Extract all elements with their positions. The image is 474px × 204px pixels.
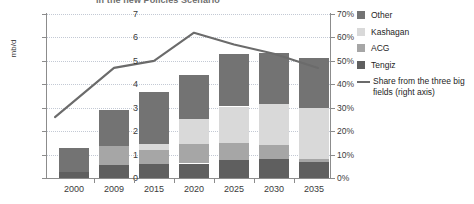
bar-2025-segment-kashagan[interactable]: [219, 107, 249, 143]
y-tick-mark: [42, 108, 46, 109]
y-tick-mark: [42, 84, 46, 85]
x-tick-mark: [134, 179, 135, 183]
x-tick-mark: [294, 179, 295, 183]
bar-2000-segment-other[interactable]: [59, 148, 89, 173]
x-tick-mark: [254, 179, 255, 183]
legend-item-share-line[interactable]: Share from the three big fields (right a…: [357, 76, 474, 97]
y-tick-mark: [42, 155, 46, 156]
y2-tick-mark: [331, 61, 335, 62]
y-tick-label: 7: [114, 10, 138, 19]
bar-2030-segment-other[interactable]: [259, 53, 289, 105]
bar-2000-segment-tengiz[interactable]: [59, 172, 89, 178]
y2-tick-mark: [331, 37, 335, 38]
bar-2035-segment-kashagan[interactable]: [299, 108, 329, 160]
bar-2035-segment-other[interactable]: [299, 58, 329, 108]
chart-legend: Other Kashagan ACG Tengiz Share from the…: [357, 10, 474, 97]
y2-tick-mark: [331, 131, 335, 132]
x-tick-mark: [174, 179, 175, 183]
chart-title: in the new Policies Scenario: [96, 0, 316, 4]
legend-label-share-line: Share from the three big fields (right a…: [373, 76, 469, 97]
y2-tick-label: 30%: [337, 104, 363, 113]
legend-label-kashagan: Kashagan: [371, 27, 409, 38]
legend-item-kashagan[interactable]: Kashagan: [357, 27, 474, 38]
bar-2025-segment-acg[interactable]: [219, 143, 249, 161]
bar-2030-segment-kashagan[interactable]: [259, 104, 289, 145]
y-axis-label: mb/d: [9, 29, 18, 69]
y-tick-label: 1: [114, 151, 138, 160]
y2-tick-label: 0%: [337, 174, 363, 183]
legend-label-other: Other: [371, 10, 392, 21]
x-tick-mark: [94, 179, 95, 183]
bar-2030-segment-acg[interactable]: [259, 145, 289, 160]
bar-2015-segment-tengiz[interactable]: [139, 164, 169, 178]
legend-label-tengiz: Tengiz: [371, 60, 396, 71]
y-tick-mark: [42, 61, 46, 62]
y-tick-label: 2: [114, 127, 138, 136]
legend-swatch-icon: [357, 44, 365, 52]
bar-2025-segment-tengiz[interactable]: [219, 160, 249, 178]
x-axis-line: [46, 178, 331, 179]
y-tick-label: 6: [114, 33, 138, 42]
y-tick-mark: [42, 14, 46, 15]
bar-2035-segment-acg[interactable]: [299, 159, 329, 162]
bar-2030-segment-tengiz[interactable]: [259, 159, 289, 178]
legend-label-acg: ACG: [371, 43, 389, 54]
legend-swatch-icon: [357, 11, 365, 19]
bar-2020-segment-tengiz[interactable]: [179, 164, 209, 179]
bar-2025-segment-other[interactable]: [219, 54, 249, 107]
y2-tick-mark: [331, 155, 335, 156]
y-tick-label: 5: [114, 57, 138, 66]
bar-2020-segment-acg[interactable]: [179, 144, 209, 164]
legend-item-tengiz[interactable]: Tengiz: [357, 60, 474, 71]
y-tick-label: 3: [114, 104, 138, 113]
legend-item-other[interactable]: Other: [357, 10, 474, 21]
y-tick-mark: [42, 131, 46, 132]
y2-tick-mark: [331, 14, 335, 15]
bar-2020-segment-other[interactable]: [179, 75, 209, 120]
bar-2015-segment-other[interactable]: [139, 92, 169, 144]
bar-2015-segment-kashagan[interactable]: [139, 144, 169, 150]
gridline: [47, 37, 330, 38]
legend-line-icon: [357, 81, 370, 83]
y2-tick-mark: [331, 178, 335, 179]
bar-2035-segment-tengiz[interactable]: [299, 162, 329, 178]
bar-2015-segment-acg[interactable]: [139, 150, 169, 164]
y2-tick-label: 20%: [337, 127, 363, 136]
y2-tick-label: 10%: [337, 151, 363, 160]
legend-swatch-icon: [357, 28, 365, 36]
y2-tick-mark: [331, 84, 335, 85]
x-tick-mark: [214, 179, 215, 183]
gridline: [47, 14, 330, 15]
y2-tick-mark: [331, 108, 335, 109]
legend-item-acg[interactable]: ACG: [357, 43, 474, 54]
legend-swatch-icon: [357, 61, 365, 69]
y-tick-label: 4: [114, 80, 138, 89]
bar-2020-segment-kashagan[interactable]: [179, 119, 209, 144]
y-tick-mark: [42, 37, 46, 38]
x-tick-label-2035: 2035: [289, 184, 339, 194]
y-tick-mark: [42, 178, 46, 179]
chart-container: in the new Policies Scenario mb/d: [0, 0, 474, 204]
